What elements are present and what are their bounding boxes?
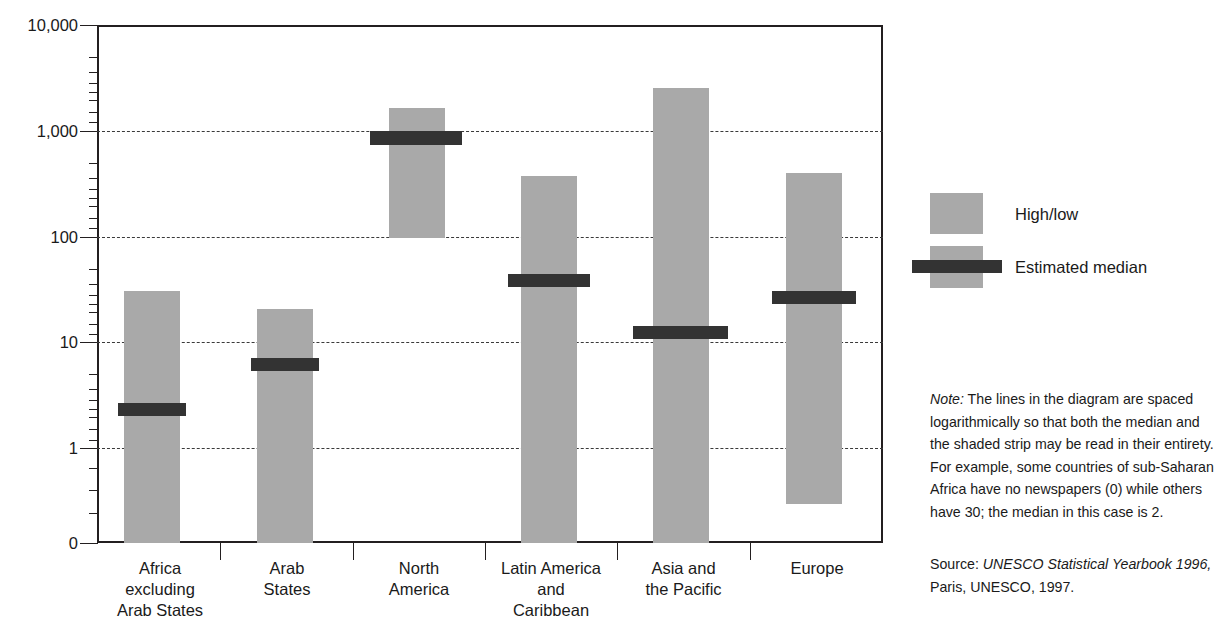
x-axis-label-africa-excluding-arab-states: Africa excluding Arab States (98, 558, 222, 621)
note-text: Note: The lines in the diagram are space… (930, 388, 1220, 523)
median-marker-arab-states (251, 358, 319, 371)
y-major-tick-0 (80, 543, 98, 544)
y-major-tick-1000 (80, 131, 98, 132)
figure-root: 10,000 1,000 100 10 1 0 (0, 0, 1221, 625)
y-tick-label-1000: 1,000 (37, 123, 78, 140)
source-rest: Paris, UNESCO, 1997. (930, 579, 1074, 595)
x-tick-2 (353, 543, 354, 560)
median-marker-north-america (370, 131, 462, 145)
bar-africa-excluding-arab-states (124, 291, 180, 543)
y-major-tick-10 (80, 342, 98, 343)
gridline-100 (97, 237, 883, 238)
y-tick-label-10000: 10,000 (28, 17, 78, 34)
median-marker-africa-excluding-arab-states (118, 403, 186, 416)
median-marker-asia-and-the-pacific (633, 326, 728, 339)
y-axis-labels: 10,000 1,000 100 10 1 0 (0, 0, 78, 625)
x-label-line: the Pacific (620, 579, 747, 600)
bar-europe (786, 173, 842, 504)
bar-latin-america-and-caribbean (521, 176, 577, 543)
x-label-line: Arab States (98, 600, 222, 621)
y-tick-label-1: 1 (69, 440, 78, 457)
x-label-line: Asia and (620, 558, 747, 579)
x-label-line: Caribbean (488, 600, 614, 621)
y-major-tick-1 (80, 448, 98, 449)
x-axis-label-latin-america-and-caribbean: Latin America and Caribbean (488, 558, 614, 621)
x-label-line: excluding (98, 579, 222, 600)
chart-area: 10,000 1,000 100 10 1 0 (0, 0, 900, 625)
x-label-line: and (488, 579, 614, 600)
legend-label-high-low: High/low (1015, 205, 1078, 223)
x-axis-label-asia-and-the-pacific: Asia and the Pacific (620, 558, 747, 600)
x-label-line: North (356, 558, 482, 579)
bar-asia-and-the-pacific (653, 88, 709, 543)
bar-north-america (389, 108, 445, 238)
source-text: Source: UNESCO Statistical Yearbook 1996… (930, 553, 1220, 598)
gridline-10 (97, 342, 883, 343)
x-axis-label-europe: Europe (753, 558, 881, 579)
x-label-line: States (224, 579, 350, 600)
legend-swatch-high-low (930, 193, 983, 234)
x-label-line: Europe (753, 558, 881, 579)
x-label-line: Arab (224, 558, 350, 579)
x-label-line: Latin America (488, 558, 614, 579)
y-tick-label-100: 100 (50, 229, 78, 246)
x-label-line: Africa (98, 558, 222, 579)
gridline-1 (97, 448, 883, 449)
plot-frame (97, 25, 883, 543)
note-prefix: Note: (930, 391, 964, 407)
x-tick-4 (617, 543, 618, 560)
bar-arab-states (257, 309, 313, 543)
x-label-line: America (356, 579, 482, 600)
side-panel: High/low Estimated median Note: The line… (900, 0, 1221, 625)
x-axis-label-arab-states: Arab States (224, 558, 350, 600)
median-marker-europe (772, 291, 856, 304)
source-prefix: Source: (930, 556, 983, 572)
y-major-tick-100 (80, 237, 98, 238)
x-tick-3 (485, 543, 486, 560)
source-title: UNESCO Statistical Yearbook 1996, (983, 556, 1211, 572)
x-tick-5 (750, 543, 751, 560)
legend-median-bar (912, 260, 1002, 273)
y-major-tick-10000 (80, 25, 98, 26)
legend-label-estimated-median: Estimated median (1015, 258, 1147, 276)
median-marker-latin-america-and-caribbean (508, 274, 590, 287)
y-tick-label-0: 0 (69, 535, 78, 552)
gridline-1000 (97, 131, 883, 132)
x-axis-label-north-america: North America (356, 558, 482, 600)
y-tick-label-10: 10 (60, 334, 78, 351)
note-body: The lines in the diagram are spaced loga… (930, 391, 1214, 520)
